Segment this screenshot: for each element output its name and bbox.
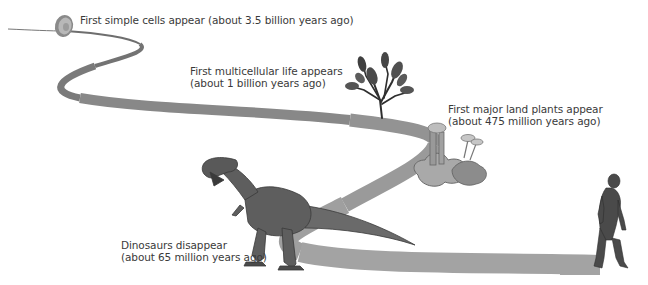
milestone-label-dinosaurs: Dinosaurs disappear (about 65 million ye… bbox=[121, 239, 267, 263]
milestone-date: (about 475 million years ago) bbox=[448, 115, 603, 127]
milestone-label-multicellular-life: First multicellular life appears (about … bbox=[190, 65, 343, 89]
cell-icon bbox=[53, 13, 75, 38]
milestone-label-land-plants: First major land plants appear (about 47… bbox=[448, 103, 603, 127]
timeline-diagram: First simple cells appear (about 3.5 bil… bbox=[0, 0, 648, 285]
timeline-path-graphic bbox=[0, 0, 648, 285]
early-human-icon bbox=[594, 174, 628, 268]
milestone-text: First major land plants appear bbox=[448, 103, 603, 115]
milestone-text: First simple cells appear (about 3.5 bil… bbox=[80, 14, 354, 26]
milestone-date: (about 65 million years ago) bbox=[121, 251, 267, 263]
milestone-label-simple-cells: First simple cells appear (about 3.5 bil… bbox=[80, 14, 354, 26]
seaweed-icon bbox=[345, 52, 414, 118]
milestone-text: Dinosaurs disappear bbox=[121, 239, 267, 251]
milestone-date: (about 1 billion years ago) bbox=[190, 77, 343, 89]
milestone-text: First multicellular life appears bbox=[190, 65, 343, 77]
